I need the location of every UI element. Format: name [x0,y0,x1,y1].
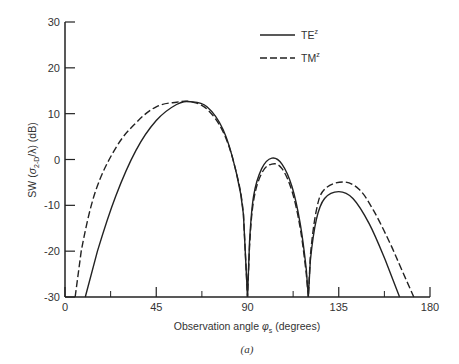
y-axis-label: SW (σ2-D/λ) (dB) [26,122,40,197]
series [75,101,414,297]
x-tick-label: 45 [150,301,162,313]
ticks: -30-20-10010203004590135180 [44,16,439,313]
te-curve [85,102,399,297]
legend-tm-label: TMz [301,51,320,64]
chart-svg: -30-20-10010203004590135180 TEz TMz Obse… [0,0,459,364]
y-tick-label: 0 [54,154,60,166]
x-tick-label: 90 [241,301,253,313]
figure-caption: (a) [241,343,254,356]
y-tick-label: -10 [44,199,60,211]
y-tick-label: 10 [48,108,60,120]
y-tick-label: -20 [44,245,60,257]
x-tick-label: 0 [62,301,68,313]
x-tick-label: 180 [421,301,439,313]
legend-te-label: TEz [301,28,318,41]
x-tick-label: 135 [330,301,348,313]
axes [65,22,430,297]
tm-curve [75,101,414,297]
y-tick-label: -30 [44,291,60,303]
x-axis-label: Observation angle φs (degrees) [174,320,320,334]
y-tick-label: 30 [48,16,60,28]
y-tick-label: 20 [48,62,60,74]
legend: TEz TMz [260,28,320,64]
